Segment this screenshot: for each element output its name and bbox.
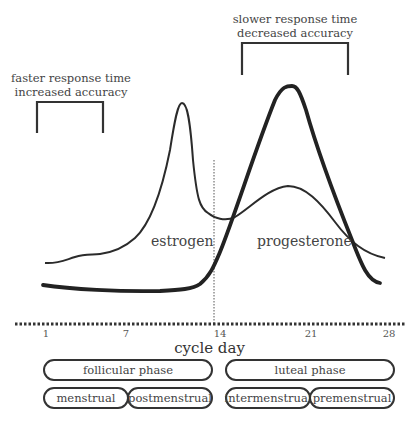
tick-21: 21 (305, 328, 318, 339)
estrogen-label: estrogen (151, 233, 213, 251)
tick-1: 1 (43, 328, 49, 339)
right-bracket-label: slower response time decreased accuracy (230, 12, 360, 41)
x-axis-title: cycle day (0, 339, 419, 358)
tick-14: 14 (214, 328, 227, 339)
right-bracket-line2: decreased accuracy (230, 26, 360, 40)
progesterone-label: progesterone (257, 233, 352, 251)
progesterone-curve (43, 86, 380, 291)
left-bracket-line1: faster response time (8, 71, 134, 85)
phase-luteal: luteal phase (225, 359, 395, 381)
phase-intermenstrual: intermenstrual (225, 387, 311, 409)
phase-premenstrual: premenstrual (309, 387, 395, 409)
right-bracket-line1: slower response time (230, 12, 360, 26)
tick-7: 7 (123, 328, 129, 339)
phase-menstrual: menstrual (43, 387, 129, 409)
phase-follicular: follicular phase (43, 359, 213, 381)
left-bracket-line2: increased accuracy (8, 85, 134, 99)
left-bracket-label: faster response time increased accuracy (8, 71, 134, 100)
phase-postmenstrual: postmenstrual (127, 387, 213, 409)
left-bracket (37, 102, 103, 133)
tick-28: 28 (383, 328, 396, 339)
right-bracket (242, 43, 348, 75)
